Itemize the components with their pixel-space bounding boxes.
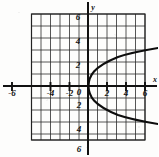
x-axis-label: x [152, 75, 157, 84]
y-tick-label-neg4: 4 [76, 124, 82, 134]
y-tick-label-6: 6 [76, 12, 81, 22]
x-tick-label-4: 4 [123, 88, 129, 98]
y-tick-label-4: 4 [75, 36, 81, 46]
x-tick-label-neg6: -6 [8, 88, 16, 98]
y-tick-label-neg2: 2 [76, 100, 82, 110]
graph-figure: 6 4 2 0 2 4 6 -6 -4 -2 2 4 6 y x [0, 0, 158, 157]
coordinate-plot: 6 4 2 0 2 4 6 -6 -4 -2 2 4 6 y x [0, 0, 158, 157]
x-tick-label-neg4: -4 [47, 88, 55, 98]
y-axis-label: y [90, 3, 95, 12]
curve-upper-branch [89, 48, 159, 86]
x-tick-label-neg2: -2 [66, 88, 74, 98]
x-tick-label-6: 6 [143, 88, 148, 98]
x-tick-label-2: 2 [104, 88, 110, 98]
y-tick-label-2: 2 [75, 60, 81, 70]
y-tick-label-neg6: 6 [77, 144, 82, 154]
origin-label: 0 [77, 87, 82, 97]
